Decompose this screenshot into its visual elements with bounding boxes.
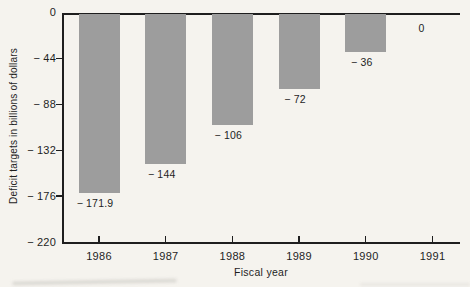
x-tick-label: 1991: [403, 250, 463, 262]
x-tick-mark: [98, 236, 99, 242]
y-tick-label: − 176: [0, 190, 56, 202]
scan-artifact-smudge-left: [12, 279, 177, 286]
bar-value-label: − 171.9: [61, 197, 129, 209]
bar-value-label: − 106: [194, 129, 262, 141]
bar-value-label: 0: [388, 22, 456, 34]
deficit-bar: [212, 14, 253, 125]
x-tick-label: 1990: [336, 250, 396, 262]
x-tick-mark: [432, 236, 433, 242]
y-tick-label: 0: [0, 6, 56, 18]
x-tick-label: 1987: [136, 250, 196, 262]
x-tick-mark: [365, 236, 366, 242]
zero-baseline: [62, 13, 460, 15]
y-tick-mark: [56, 104, 62, 105]
x-tick-mark: [165, 236, 166, 242]
bar-value-label: − 36: [328, 56, 396, 68]
y-tick-label: − 132: [0, 144, 56, 156]
x-tick-mark: [232, 236, 233, 242]
deficit-targets-bar-chart: Deficit targets in billions of dollars 0…: [0, 0, 470, 287]
deficit-bar: [79, 14, 120, 193]
x-tick-mark: [298, 236, 299, 242]
y-tick-mark: [56, 58, 62, 59]
x-tick-label: 1989: [269, 250, 329, 262]
deficit-bar: [345, 14, 386, 52]
x-axis-line: [62, 242, 460, 244]
y-tick-label: − 44: [0, 52, 56, 64]
bar-value-label: − 72: [261, 93, 329, 105]
y-tick-label: − 220: [0, 236, 56, 248]
x-tick-label: 1986: [69, 250, 129, 262]
deficit-bar: [279, 14, 320, 89]
scan-artifact-smudge-right: [360, 283, 470, 286]
y-tick-mark: [56, 150, 62, 151]
x-axis-title: Fiscal year: [62, 266, 460, 278]
deficit-bar: [145, 14, 186, 164]
y-tick-label: − 88: [0, 98, 56, 110]
x-tick-label: 1988: [202, 250, 262, 262]
bar-value-label: − 144: [128, 168, 196, 180]
y-axis-title: Deficit targets in billions of dollars: [8, 48, 19, 204]
